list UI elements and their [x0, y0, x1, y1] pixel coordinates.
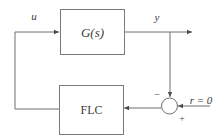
plus-sign: +	[179, 113, 184, 123]
minus-sign: −	[154, 89, 160, 100]
control-input-label: u	[31, 10, 37, 22]
controller-block: FLC	[60, 86, 124, 135]
control-signal-line	[15, 32, 59, 109]
plant-block: G(s)	[61, 10, 125, 55]
block-diagram: G(s) FLC u y r = 0 − +	[0, 0, 223, 140]
summing-junction	[162, 98, 178, 114]
plant-label: G(s)	[81, 25, 104, 40]
controller-label: FLC	[80, 103, 102, 117]
output-label: y	[154, 11, 160, 23]
reference-label: r = 0	[190, 94, 213, 106]
